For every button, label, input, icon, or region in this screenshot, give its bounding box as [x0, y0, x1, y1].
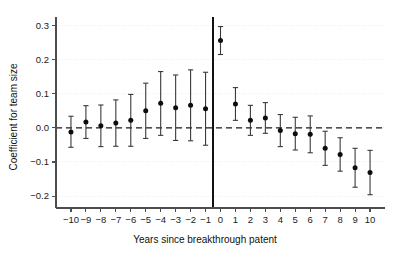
y-axis-ticks: 0.30.20.10.0−0.1−0.2 — [30, 20, 56, 202]
y-tick-label: 0.3 — [36, 20, 49, 31]
x-tick-label: −2 — [185, 214, 196, 225]
x-tick-label: −3 — [170, 214, 181, 225]
data-point-marker — [188, 103, 193, 108]
y-tick-label: 0.2 — [36, 54, 49, 65]
data-point-marker — [143, 108, 148, 113]
data-point-marker — [68, 129, 73, 134]
data-point-marker — [233, 101, 238, 106]
y-tick-label: 0.0 — [36, 122, 49, 133]
data-point-marker — [293, 131, 298, 136]
x-tick-label: −6 — [125, 214, 136, 225]
data-point-marker — [128, 118, 133, 123]
chart-figure: 0.30.20.10.0−0.1−0.2 −10−9−8−7−6−5−4−3−2… — [0, 0, 400, 260]
data-point-marker — [353, 165, 358, 170]
coefficient-event-study-plot: 0.30.20.10.0−0.1−0.2 −10−9−8−7−6−5−4−3−2… — [0, 0, 400, 260]
data-point-marker — [248, 118, 253, 123]
data-points — [68, 38, 372, 175]
x-tick-label: 2 — [248, 214, 253, 225]
x-axis-ticks: −10−9−8−7−6−5−4−3−2−1012345678910 — [63, 208, 375, 225]
x-tick-label: 0 — [218, 214, 223, 225]
data-point-marker — [203, 106, 208, 111]
y-tick-label: 0.1 — [36, 88, 49, 99]
data-point-marker — [308, 132, 313, 137]
x-tick-label: 1 — [233, 214, 238, 225]
x-tick-label: −1 — [200, 214, 211, 225]
data-point-marker — [158, 101, 163, 106]
x-tick-label: 10 — [365, 214, 376, 225]
x-tick-label: −10 — [63, 214, 79, 225]
x-tick-label: 5 — [293, 214, 298, 225]
x-axis-title: Years since breakthrough patent — [133, 234, 277, 245]
data-point-marker — [323, 146, 328, 151]
x-tick-label: −7 — [110, 214, 121, 225]
error-bars — [68, 27, 372, 195]
data-point-marker — [278, 128, 283, 133]
y-axis-title: Coefficient for team size — [8, 63, 19, 171]
data-point-marker — [83, 120, 88, 125]
x-tick-label: 6 — [308, 214, 313, 225]
data-point-marker — [98, 123, 103, 128]
data-point-marker — [368, 170, 373, 175]
x-tick-label: 7 — [323, 214, 328, 225]
y-tick-label: −0.1 — [30, 156, 49, 167]
x-tick-label: 3 — [263, 214, 268, 225]
x-tick-label: −4 — [155, 214, 166, 225]
data-point-marker — [173, 105, 178, 110]
x-tick-label: 8 — [337, 214, 342, 225]
x-tick-label: 4 — [278, 214, 283, 225]
data-point-marker — [218, 38, 223, 43]
y-tick-label: −0.2 — [30, 190, 49, 201]
x-tick-label: −5 — [140, 214, 151, 225]
data-point-marker — [263, 115, 268, 120]
x-tick-label: −8 — [95, 214, 106, 225]
data-point-marker — [113, 121, 118, 126]
x-tick-label: 9 — [352, 214, 357, 225]
x-tick-label: −9 — [80, 214, 91, 225]
data-point-marker — [338, 152, 343, 157]
